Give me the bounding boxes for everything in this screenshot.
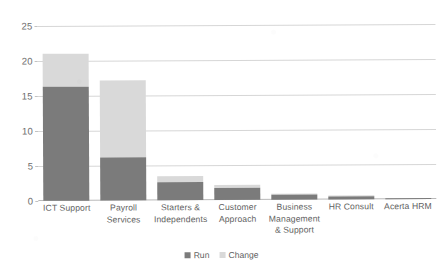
bar-stack[interactable] [328, 195, 374, 199]
bar-stack[interactable] [100, 80, 147, 201]
y-axis-tick-label: 10 [22, 125, 33, 136]
legend-item[interactable]: Change [219, 250, 258, 260]
y-axis-tick-label: 25 [21, 20, 32, 31]
bar-stack[interactable] [43, 54, 90, 201]
bar-slot [379, 24, 437, 199]
x-axis-labels: ICT SupportPayrollServicesStarters &Inde… [38, 201, 436, 237]
x-axis-label: Acerta HRM [380, 201, 437, 236]
x-axis-label: Starters &Independents [152, 202, 209, 237]
bar-segment-change[interactable] [100, 80, 146, 158]
x-axis-label: HR Consult [323, 201, 380, 236]
bar-stack[interactable] [214, 184, 260, 200]
bar-slot [208, 25, 266, 200]
bar-slot [94, 25, 152, 200]
legend-item[interactable]: Run [185, 250, 210, 260]
bar-segment-run[interactable] [328, 196, 374, 200]
bar-segment-run[interactable] [157, 182, 203, 200]
stacked-bar-chart: 0510152025 ICT SupportPayrollServicesSta… [0, 0, 442, 270]
x-axis-label: BusinessManagement& Support [266, 202, 323, 237]
bar-segment-run[interactable] [214, 188, 260, 200]
bar-segment-change[interactable] [43, 54, 89, 87]
x-axis-label: ICT Support [38, 203, 95, 238]
y-axis-tick-label: 5 [28, 160, 34, 171]
legend-label: Run [194, 250, 210, 260]
bar-stack[interactable] [157, 176, 203, 200]
legend-label: Change [228, 250, 258, 260]
y-axis-tick-label: 0 [28, 195, 34, 206]
bar-stack[interactable] [385, 198, 431, 200]
bar-segment-run[interactable] [100, 158, 146, 201]
y-axis-tick-label: 20 [22, 55, 33, 66]
y-axis-tick-label: 15 [22, 90, 33, 101]
bar-segment-run[interactable] [271, 195, 317, 200]
bar-slot [322, 24, 380, 199]
y-axis-tick-mark [35, 201, 38, 202]
bar-segment-run[interactable] [385, 198, 431, 199]
chart-legend: RunChange [1, 249, 442, 261]
bar-series-group [37, 24, 436, 201]
bar-slot [151, 25, 209, 200]
legend-swatch-icon [185, 252, 191, 258]
plot-area: 0510152025 [37, 24, 436, 201]
x-axis-label: CustomerApproach [209, 202, 266, 237]
bar-slot [265, 25, 323, 200]
legend-swatch-icon [219, 252, 225, 258]
x-axis-label: PayrollServices [95, 202, 152, 237]
bar-stack[interactable] [271, 193, 317, 200]
bar-slot [37, 26, 95, 201]
bar-segment-run[interactable] [43, 87, 90, 201]
